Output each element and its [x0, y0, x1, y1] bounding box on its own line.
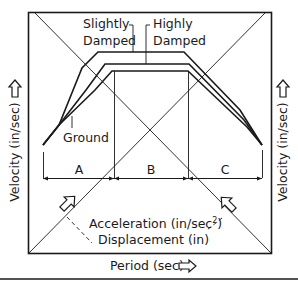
acceleration-axis-label: Acceleration (in/sec2): [89, 216, 222, 231]
left-velocity-axis: Velocity (in/sec): [7, 102, 22, 201]
acceleration-axis-text: Acceleration (in/sec: [89, 216, 212, 231]
highly-damped-label-1: Highly: [153, 16, 193, 31]
left-up-arrow-icon: [9, 80, 21, 97]
acceleration-close-paren: ): [217, 216, 222, 231]
region-c-label: C: [221, 162, 230, 177]
right-up-arrow-icon: [277, 80, 289, 97]
period-axis-label: Period (sec): [110, 258, 184, 273]
displacement-axis-label: Displacement (in): [98, 232, 209, 247]
highly-damped-label-2: Damped: [153, 33, 206, 48]
displacement-arrow-icon: [216, 192, 239, 215]
slightly-damped-label-2: Damped: [83, 33, 136, 48]
left-velocity-label: Velocity (in/sec): [7, 102, 22, 201]
ground-label: Ground: [63, 130, 109, 145]
right-velocity-label: Velocity (in/sec): [275, 102, 290, 201]
acceleration-arrow-icon: [57, 191, 80, 214]
right-velocity-axis: Velocity (in/sec): [275, 102, 290, 201]
highly-damped-leader: [146, 25, 150, 64]
region-a-label: A: [75, 162, 84, 177]
slightly-damped-label-1: Slightly: [83, 16, 130, 31]
response-spectrum-diagram: Slightly Damped Highly Damped Ground A B…: [0, 0, 298, 282]
region-b-label: B: [147, 162, 156, 177]
